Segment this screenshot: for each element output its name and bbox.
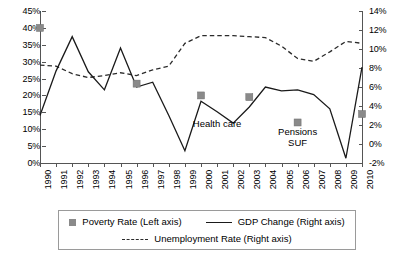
legend-item-unemployment-rate: Unemployment Rate (Right axis) — [122, 234, 291, 244]
poverty-rate-marker — [37, 24, 44, 31]
legend-label-gdp-change: GDP Change (Right axis) — [238, 217, 345, 227]
square-marker-icon — [69, 219, 76, 226]
poverty-rate-marker — [198, 92, 205, 99]
annotation-pensions: Pensions — [258, 126, 338, 137]
poverty-rate-marker — [359, 111, 366, 118]
legend-label-unemployment-rate: Unemployment Rate (Right axis) — [154, 234, 291, 244]
chart-legend: Poverty Rate (Left axis) GDP Change (Rig… — [58, 210, 356, 250]
poverty-rate-marker — [133, 80, 140, 87]
annotation-health-care: Health care — [177, 118, 257, 129]
poverty-rate-markers — [37, 24, 366, 126]
legend-item-poverty-rate: Poverty Rate (Left axis) — [69, 217, 181, 227]
legend-label-poverty-rate: Poverty Rate (Left axis) — [82, 217, 181, 227]
annotation-suf: SUF — [258, 137, 338, 148]
poverty-rate-marker — [246, 94, 253, 101]
chart-container: 0%5%10%15%20%25%30%35%40%45% -2%0%2%4%6%… — [0, 0, 411, 256]
legend-item-gdp-change: GDP Change (Right axis) — [206, 217, 345, 227]
dashed-line-icon — [122, 239, 148, 240]
solid-line-icon — [206, 222, 232, 223]
